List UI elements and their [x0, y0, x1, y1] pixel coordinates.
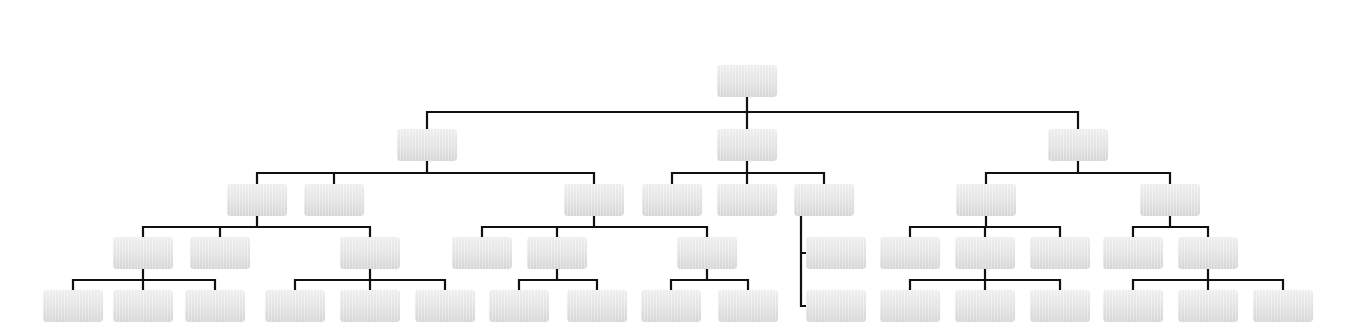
- org-node-L4i: [641, 290, 701, 322]
- org-node-L3h: [880, 237, 940, 269]
- org-node-L3f: [677, 237, 737, 269]
- org-node-L4q: [1253, 290, 1313, 322]
- org-node-L2h: [1140, 184, 1200, 216]
- org-node-L4a: [43, 290, 103, 322]
- org-node-L3i: [955, 237, 1015, 269]
- org-node-L2e: [717, 184, 777, 216]
- org-node-L3j: [1030, 237, 1090, 269]
- org-chart-diagram: [0, 0, 1366, 332]
- org-node-root: [717, 65, 777, 97]
- org-node-L4e: [340, 290, 400, 322]
- org-node-L1c: [1048, 129, 1108, 161]
- connector-lines: [0, 0, 1366, 332]
- org-node-L3a: [113, 237, 173, 269]
- org-node-L4f: [415, 290, 475, 322]
- org-node-L4m: [955, 290, 1015, 322]
- org-node-L4l: [880, 290, 940, 322]
- org-node-L4d: [265, 290, 325, 322]
- org-node-L2b: [304, 184, 364, 216]
- org-node-L2g: [956, 184, 1016, 216]
- org-node-L2f: [794, 184, 854, 216]
- org-node-L3g: [806, 237, 866, 269]
- org-node-L3e: [527, 237, 587, 269]
- org-node-L3b: [190, 237, 250, 269]
- org-node-L4b: [113, 290, 173, 322]
- org-node-L4p: [1178, 290, 1238, 322]
- org-node-L3d: [452, 237, 512, 269]
- org-node-L4n: [1030, 290, 1090, 322]
- org-node-L4c: [185, 290, 245, 322]
- org-node-L3l: [1178, 237, 1238, 269]
- org-node-L1a: [397, 129, 457, 161]
- org-node-L2c: [564, 184, 624, 216]
- org-node-L3k: [1103, 237, 1163, 269]
- org-node-L4o: [1103, 290, 1163, 322]
- org-node-L4j: [718, 290, 778, 322]
- org-node-L4k: [806, 290, 866, 322]
- org-node-L2d: [642, 184, 702, 216]
- org-node-L2a: [227, 184, 287, 216]
- org-node-L4h: [567, 290, 627, 322]
- org-node-L4g: [489, 290, 549, 322]
- org-node-L1b: [717, 129, 777, 161]
- org-node-L3c: [340, 237, 400, 269]
